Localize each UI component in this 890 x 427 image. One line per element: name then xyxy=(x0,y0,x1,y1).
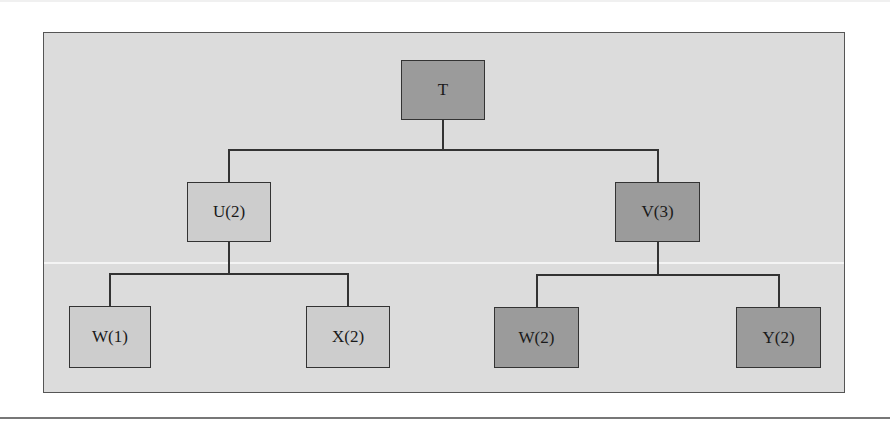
node-label: Y(2) xyxy=(762,328,794,348)
node-label: V(3) xyxy=(641,202,673,222)
panel-seam xyxy=(44,262,844,264)
node-y2: Y(2) xyxy=(736,307,821,368)
connector-u-down xyxy=(228,241,230,274)
node-label: W(1) xyxy=(92,327,128,347)
connector-to-y2 xyxy=(778,274,780,307)
connector-to-w1 xyxy=(109,273,111,307)
connector-v-down xyxy=(657,242,659,275)
node-w2: W(2) xyxy=(494,307,579,368)
node-root-t: T xyxy=(401,60,485,120)
bottom-divider xyxy=(0,417,890,419)
node-x2: X(2) xyxy=(306,306,390,368)
node-label: T xyxy=(438,80,448,100)
node-v: V(3) xyxy=(615,182,700,242)
node-w1: W(1) xyxy=(69,306,151,368)
node-label: U(2) xyxy=(213,202,245,222)
connector-to-w2 xyxy=(536,274,538,307)
connector-root-bar xyxy=(228,149,658,151)
node-label: W(2) xyxy=(519,328,555,348)
connector-v-bar xyxy=(536,274,779,276)
connector-to-x2 xyxy=(347,273,349,307)
connector-u-bar xyxy=(109,273,349,275)
node-u: U(2) xyxy=(187,182,271,242)
connector-root-down xyxy=(442,119,444,150)
node-label: X(2) xyxy=(332,327,364,347)
connector-to-v xyxy=(657,149,659,182)
connector-to-u xyxy=(228,149,230,182)
top-divider xyxy=(0,0,890,2)
